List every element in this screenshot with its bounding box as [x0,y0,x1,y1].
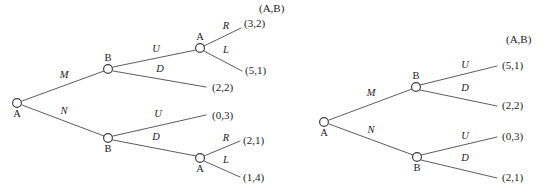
node-player-label-L3: A [196,31,204,42]
decision-node-L3[interactable]: A [196,31,205,52]
decision-node-L1[interactable]: B [104,52,113,73]
left-tree-nodes: ABBAA [13,31,205,174]
payoff-terminal_14: (1,4) [243,171,264,184]
node-circle-L2 [104,134,113,143]
action-label-l-left-tree-9: L [222,154,229,165]
left-tree-payoffs: (3,2)(5,1)(2,2)(0,3)(2,1)(1,4) [212,17,266,184]
action-label-d-left-tree-3: D [155,63,164,74]
node-circle-L3 [196,44,205,53]
branch-L2-to-L4 [113,140,196,156]
node-player-label-R1: B [412,70,419,81]
node-player-label-L2: B [104,143,111,154]
action-label-u-right-tree-2: U [461,59,470,70]
right-tree-payoffs: (5,1)(2,2)(0,3)(2,1) [502,59,523,184]
diagram-canvas: MNUDUDRLRLABBAA(A,B)(3,2)(5,1)(2,2)(0,3)… [13,2,532,184]
node-player-label-L1: B [104,52,111,63]
right-tree: MNUDUDABB(A,B)(5,1)(2,2)(0,3)(2,1) [320,33,532,184]
action-label-d-right-tree-3: D [460,82,469,93]
action-label-u-left-tree-4: U [154,108,163,119]
action-label-m-right-tree-0: M [366,87,377,98]
action-label-u-left-tree-2: U [152,43,161,54]
branch-R2-to-terminal_R21 [421,160,497,178]
payoff-terminal_32: (3,2) [244,17,265,30]
node-player-label-L4: A [196,163,204,174]
node-circle-R1 [412,83,421,92]
node-player-label-L0: A [13,108,21,119]
node-player-label-R2: B [413,162,420,173]
decision-node-L2[interactable]: B [104,134,113,154]
payoff-terminal_R03: (0,3) [502,130,523,143]
node-circle-R0 [320,118,329,127]
left-tree-edges: MNUDUDRLRL [22,20,242,177]
decision-node-L4[interactable]: A [196,154,205,174]
right-tree-nodes: ABB [320,70,422,173]
action-label-r-left-tree-8: R [222,132,230,143]
payoff-terminal_R21: (2,1) [502,171,523,184]
decision-node-L0[interactable]: A [13,99,22,119]
payoff-header-right-tree: (A,B) [506,33,532,46]
node-circle-L1 [104,65,113,74]
node-circle-L0 [13,99,22,108]
node-player-label-R0: A [320,127,328,138]
decision-node-R1[interactable]: B [412,70,421,91]
payoff-terminal_51: (5,1) [245,64,266,77]
payoff-terminal_L22: (2,2) [212,81,233,94]
game-tree-figure: MNUDUDRLRLABBAA(A,B)(3,2)(5,1)(2,2)(0,3)… [0,0,547,193]
payoff-terminal_R51: (5,1) [502,59,523,72]
payoff-header-left-tree: (A,B) [259,2,285,15]
branch-L4-to-terminal_21 [204,141,240,156]
action-label-m-left-tree-0: M [59,69,70,80]
payoff-terminal_R22: (2,2) [502,99,523,112]
branch-R1-to-terminal_R51 [420,66,497,85]
action-label-n-right-tree-1: N [366,124,375,135]
action-label-l-left-tree-7: L [222,44,229,55]
payoff-terminal_L03: (0,3) [212,109,233,122]
node-circle-R2 [413,153,422,162]
branch-R2-to-terminal_R03 [421,137,497,155]
node-circle-L4 [196,154,205,163]
decision-node-R2[interactable]: B [413,153,422,173]
action-label-d-left-tree-5: D [151,131,160,142]
action-label-d-right-tree-5: D [460,152,469,163]
left-tree: MNUDUDRLRLABBAA(A,B)(3,2)(5,1)(2,2)(0,3)… [13,2,285,184]
action-label-u-right-tree-4: U [461,130,470,141]
payoff-terminal_21: (2,1) [243,134,264,147]
decision-node-R0[interactable]: A [320,118,329,138]
action-label-n-left-tree-1: N [59,105,68,116]
branch-L4-to-terminal_14 [204,161,240,177]
branch-R1-to-terminal_R22 [420,90,497,106]
action-label-r-left-tree-6: R [222,20,230,31]
